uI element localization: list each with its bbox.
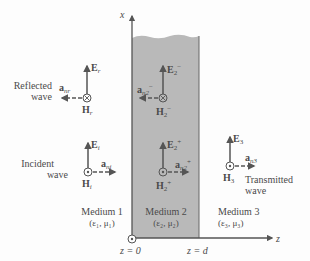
reflected-label-line1: Reflected [4,80,52,91]
reflected-label-line2: wave [4,91,52,102]
medium1-params: (ε₁, μ₁) [72,218,132,229]
medium1-label: Medium 1 [72,206,132,217]
transmitted-label-line2: wave [245,185,266,196]
incident-E-label: Ei [91,139,100,154]
medium3-label: Medium 3 [218,206,259,217]
medium2-plus-H-label: H2+ [156,178,171,195]
medium2-label: Medium 2 [135,206,197,217]
reflected-E-label: Er [91,62,100,77]
zd-label: z = d [187,245,208,256]
z0-label: z = 0 [120,245,141,256]
incident-a-label: ani [101,158,111,173]
incident-H-label: Hi [82,178,92,193]
transmitted-H-label: H3 [223,172,234,187]
medium2-minus-H-label: H2− [156,104,171,121]
z-axis-label: z [276,233,280,244]
medium2-params: (ε₂, μ₂) [135,218,197,229]
medium2-minus-a-label: an2− [137,82,153,99]
medium2-plus-E-label: E2+ [167,137,181,154]
wave-diagram: x z z = 0 z = d Medium 1 (ε₁, μ₁) Medium… [0,0,310,261]
incident-label-line1: Incident [4,158,54,169]
transmitted-a-label: an3 [245,152,257,167]
reflected-a-label: anr [59,82,70,97]
incident-label-line2: wave [4,169,68,180]
transmitted-E-label: E3 [233,133,243,148]
medium2-minus-E-label: E2− [167,62,181,79]
medium3-params: (ε₃, μ₃) [218,218,243,229]
transmitted-label-line1: Transmitted [245,174,293,185]
medium2-plus-a-label: an2+ [175,157,191,174]
reflected-H-label: Hr [82,104,93,119]
x-axis-label: x [120,9,124,20]
